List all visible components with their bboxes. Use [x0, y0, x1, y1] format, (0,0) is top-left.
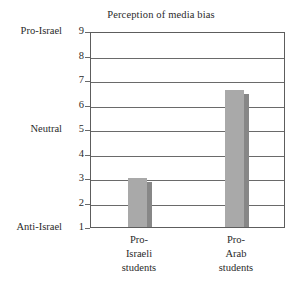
y-axis-tick-label: 6	[62, 100, 84, 111]
category-line: Pro-	[94, 233, 184, 247]
y-axis-tick-label: 1	[62, 222, 84, 233]
y-axis-tick-label: 2	[62, 198, 84, 209]
y-axis-tick-label: 8	[62, 51, 84, 62]
y-axis-tick-label: 7	[62, 75, 84, 86]
gridline	[91, 131, 284, 132]
x-axis-category-label-pro-arab-students: Pro- Arab students	[191, 233, 281, 275]
y-axis-band-label-anti-israel: Anti-Israel	[0, 222, 62, 233]
chart-title: Perception of media bias	[0, 9, 304, 20]
plot-area	[90, 32, 285, 228]
bar-shadow-edge	[244, 94, 249, 227]
bar-shadow-edge	[147, 182, 152, 227]
bar-pro-arab-students[interactable]	[225, 90, 249, 227]
y-axis-tick-label: 4	[62, 149, 84, 160]
gridline	[91, 156, 284, 157]
category-line: Israeli	[94, 247, 184, 261]
gridline	[91, 58, 284, 59]
y-axis-tick-label: 5	[62, 124, 84, 135]
y-axis-band-label-neutral: Neutral	[0, 124, 62, 135]
bar-fill	[128, 178, 147, 227]
category-line: students	[191, 261, 281, 275]
y-axis-band-label-pro-israel: Pro-Israel	[0, 26, 62, 37]
bar-pro-israeli-students[interactable]	[128, 178, 152, 227]
category-line: Arab	[191, 247, 281, 261]
category-line: Pro-	[191, 233, 281, 247]
y-axis-tick-label: 3	[62, 173, 84, 184]
category-line: students	[94, 261, 184, 275]
gridline	[91, 82, 284, 83]
gridline	[91, 107, 284, 108]
x-axis-category-label-pro-israeli-students: Pro- Israeli students	[94, 233, 184, 275]
y-axis-tick-mark	[85, 228, 90, 229]
y-axis-tick-label: 9	[62, 26, 84, 37]
bar-fill	[225, 90, 244, 227]
gridline	[91, 205, 284, 206]
gridline	[91, 180, 284, 181]
